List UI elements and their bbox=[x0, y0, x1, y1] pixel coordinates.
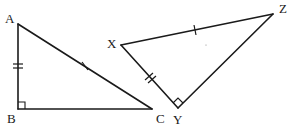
triangle-abc: A B C bbox=[5, 11, 165, 126]
side-xz bbox=[121, 14, 273, 45]
vertex-label-a: A bbox=[5, 11, 15, 26]
diagram-canvas: A B C X Y Z bbox=[0, 0, 293, 130]
vertex-label-b: B bbox=[7, 111, 16, 126]
vertex-label-z: Z bbox=[279, 1, 287, 16]
side-yz bbox=[178, 14, 273, 108]
vertex-label-x: X bbox=[107, 36, 117, 51]
vertex-label-y: Y bbox=[173, 112, 183, 127]
right-angle-marker-y bbox=[173, 98, 183, 103]
right-angle-marker-b bbox=[18, 102, 25, 109]
vertex-label-c: C bbox=[156, 111, 165, 126]
triangle-xyz: X Y Z bbox=[107, 1, 287, 127]
triangles-figure: A B C X Y Z bbox=[0, 0, 293, 130]
stray-dot bbox=[205, 44, 206, 45]
